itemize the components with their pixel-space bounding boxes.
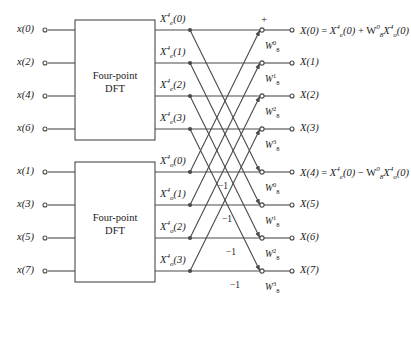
input-label-x7: x(7) [17,265,34,276]
input-label-x4: x(4) [17,90,34,101]
input-label-x5: x(5) [17,232,34,243]
minus-one-label-2: −1 [226,248,236,258]
dft-output-stubs [155,30,190,271]
twiddle-label-3: W38 [265,139,279,153]
output-label-X2: X(2) [300,90,319,101]
intermediate-label-even-3: X4e(3) [160,111,185,126]
input-label-x3: x(3) [17,199,34,210]
dft-box-odd-line1: Four-point [93,212,138,223]
source-nodes [188,28,192,273]
intermediate-label-odd-0: X4o(0) [160,154,186,169]
intermediate-label-even-1: X4e(1) [160,45,185,60]
output-label-X5: X(5) [300,199,319,210]
dft-box-odd-caption: Four-point DFT [75,212,155,238]
butterfly-cross-down [190,30,260,271]
twiddle-label-0: W08 [265,40,279,54]
output-label-X6: X(6) [300,232,319,243]
twiddle-label-4: W08 [265,182,279,196]
sum-nodes [260,28,264,273]
fft-butterfly-diagram: Four-point DFT Four-point DFT x(0) x(2) … [0,0,411,340]
twiddle-label-6: W28 [265,248,279,262]
output-label-X4: X(4) = X4e(0) − W08X4o(0) [300,166,409,181]
output-label-X7: X(7) [300,265,319,276]
twiddle-label-1: W18 [265,73,279,87]
output-label-X0: X(0) = X4e(0) + W08X4o(0) [300,24,409,39]
twiddle-label-2: W28 [265,106,279,120]
output-label-X3: X(3) [300,123,319,134]
twiddle-label-5: W18 [265,215,279,229]
minus-one-label-1: −1 [222,215,232,225]
intermediate-label-odd-1: X4o(1) [160,187,186,202]
intermediate-label-even-0: X4e(0) [160,12,185,27]
output-terminals [290,28,294,273]
minus-one-label-3: −1 [230,281,240,291]
plus-sign-label: + [261,14,267,25]
twiddle-label-7: W38 [265,281,279,295]
intermediate-label-odd-2: X4o(2) [160,220,186,235]
input-label-x2: x(2) [17,57,34,68]
dft-box-even-line2: DFT [105,83,125,94]
input-label-x6: x(6) [17,123,34,134]
input-label-x0: x(0) [17,24,34,35]
intermediate-label-even-2: X4e(2) [160,78,185,93]
input-stubs [48,30,75,271]
dft-box-odd-line2: DFT [105,225,125,236]
intermediate-label-odd-3: X4o(3) [160,253,186,268]
dft-box-even-line1: Four-point [93,70,138,81]
input-label-x1: x(1) [17,166,34,177]
minus-one-label-0: −1 [218,182,228,192]
output-label-X1: X(1) [300,57,319,68]
dft-box-even-caption: Four-point DFT [75,70,155,96]
input-terminals [43,28,47,273]
